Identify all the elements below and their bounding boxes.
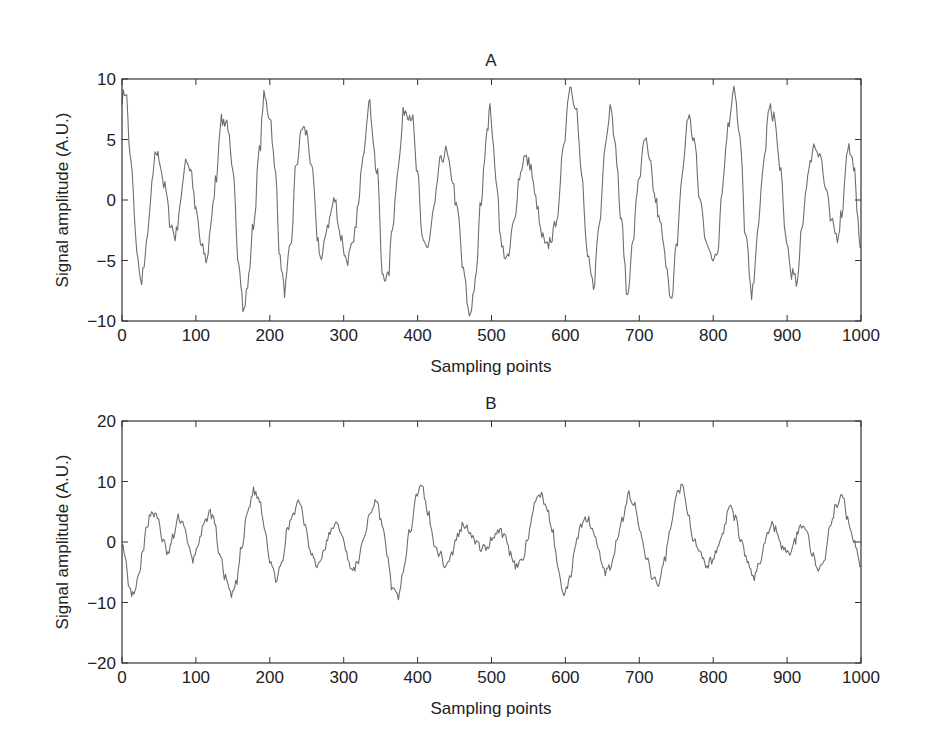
panel-b-xtick-label: 900 — [773, 668, 801, 687]
panel-a-xtick-label: 800 — [699, 326, 727, 345]
panel-a-xtick-label: 300 — [330, 326, 358, 345]
panel-a-xtick-label: 900 — [773, 326, 801, 345]
panel-b-xtick-label: 1000 — [842, 668, 880, 687]
panel-b-signal-line — [122, 484, 861, 600]
panel-a-ytick-label: 0 — [107, 191, 116, 210]
panel-b-axes-box — [122, 421, 861, 663]
panel-b-xtick-label: 700 — [625, 668, 653, 687]
panel-a-xtick-label: 0 — [117, 326, 126, 345]
panel-a-title: A — [485, 51, 497, 70]
panel-a-xtick-label: 100 — [182, 326, 210, 345]
panel-a-ylabel: Signal amplitude (A.U.) — [53, 113, 72, 288]
panel-b-ytick-label: −20 — [87, 654, 116, 673]
panel-b-xlabel: Sampling points — [431, 699, 552, 718]
panel-b-ytick-label: −10 — [87, 594, 116, 613]
panel-a-ytick-label: −10 — [87, 312, 116, 331]
panel-a: A 010020030040050060070080090010001050−5… — [53, 51, 880, 376]
panel-b-ticks: 0100200300400500600700800900100020100−10… — [87, 412, 880, 687]
panel-b-ylabel: Signal amplitude (A.U.) — [53, 455, 72, 630]
panel-b-xtick-label: 600 — [551, 668, 579, 687]
panel-a-xtick-label: 700 — [625, 326, 653, 345]
figure: A 010020030040050060070080090010001050−5… — [0, 0, 931, 752]
panel-a-ytick-label: −5 — [97, 252, 116, 271]
panel-b-xtick-label: 300 — [330, 668, 358, 687]
panel-b-title: B — [485, 394, 496, 413]
panel-b-xtick-label: 0 — [117, 668, 126, 687]
panel-a-ticks: 010020030040050060070080090010001050−5−1… — [87, 70, 880, 345]
panel-b-xtick-label: 800 — [699, 668, 727, 687]
panel-b-ytick-label: 20 — [97, 412, 116, 431]
panel-b-ytick-label: 0 — [107, 533, 116, 552]
panel-a-signal-line — [122, 86, 861, 316]
panel-a-xtick-label: 200 — [256, 326, 284, 345]
panel-a-xtick-label: 400 — [403, 326, 431, 345]
panel-b-ytick-label: 10 — [97, 473, 116, 492]
panel-b: B 0100200300400500600700800900100020100−… — [53, 394, 880, 718]
panel-a-xtick-label: 600 — [551, 326, 579, 345]
panel-a-xtick-label: 1000 — [842, 326, 880, 345]
panel-b-xtick-label: 500 — [477, 668, 505, 687]
panel-a-ytick-label: 5 — [107, 131, 116, 150]
panel-b-xtick-label: 400 — [403, 668, 431, 687]
panel-a-xtick-label: 500 — [477, 326, 505, 345]
panel-b-xtick-label: 100 — [182, 668, 210, 687]
panel-a-ytick-label: 10 — [97, 70, 116, 89]
panel-b-xtick-label: 200 — [256, 668, 284, 687]
panel-a-xlabel: Sampling points — [431, 357, 552, 376]
